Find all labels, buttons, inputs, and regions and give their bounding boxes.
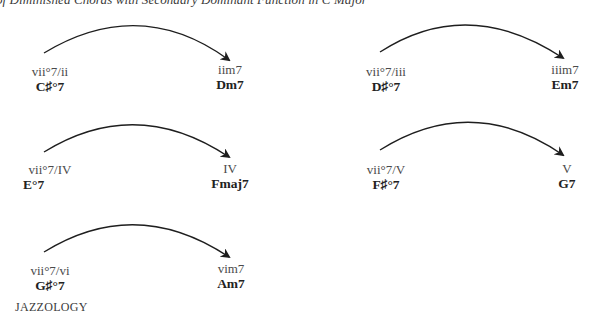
arrow-arc-4 [380, 122, 563, 155]
roman-numeral: vii°7/ii [20, 64, 80, 79]
roman-numeral: vii°7/V [355, 162, 417, 177]
source-chord-1: vii°7/ii C♯°7 [20, 64, 80, 94]
roman-numeral: vii°7/vi [20, 263, 80, 278]
chord-symbol: F♯°7 [355, 177, 417, 192]
chord-symbol: Fmaj7 [205, 176, 255, 191]
target-chord-2: iiim7 Em7 [543, 62, 587, 92]
chord-symbol: D♯°7 [355, 79, 417, 94]
arrow-arc-5 [44, 225, 229, 257]
roman-numeral: V [555, 161, 579, 176]
publisher-mark: JAZZOLOGY [15, 300, 88, 315]
chord-symbol: Am7 [210, 276, 252, 291]
target-chord-4: V G7 [555, 161, 579, 191]
chord-symbol: G♯°7 [20, 278, 80, 293]
chord-symbol: C♯°7 [20, 79, 80, 94]
roman-numeral: vim7 [210, 261, 252, 276]
source-chord-4: vii°7/V F♯°7 [355, 162, 417, 192]
roman-numeral: iiim7 [543, 62, 587, 77]
roman-numeral: vii°7/IV [17, 162, 83, 177]
source-chord-3: vii°7/IV E°7 [17, 162, 83, 192]
roman-numeral: IV [205, 161, 255, 176]
arrow-arc-1 [44, 26, 229, 60]
target-chord-5: vim7 Am7 [210, 261, 252, 291]
chord-symbol: E°7 [17, 177, 83, 192]
source-chord-5: vii°7/vi G♯°7 [20, 263, 80, 293]
roman-numeral: iim7 [210, 62, 250, 77]
arrow-arc-3 [44, 125, 229, 157]
roman-numeral: vii°7/iii [355, 64, 417, 79]
source-chord-2: vii°7/iii D♯°7 [355, 64, 417, 94]
chord-symbol: G7 [555, 176, 579, 191]
resolution-arrows [0, 0, 599, 333]
chord-symbol: Dm7 [210, 77, 250, 92]
target-chord-3: IV Fmaj7 [205, 161, 255, 191]
chord-symbol: Em7 [543, 77, 587, 92]
arrow-arc-2 [380, 25, 563, 58]
target-chord-1: iim7 Dm7 [210, 62, 250, 92]
